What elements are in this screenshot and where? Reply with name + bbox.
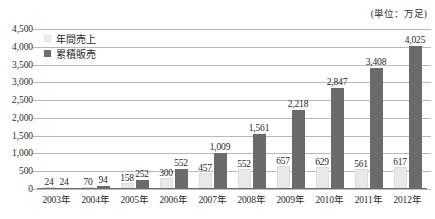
bar-slot: 552 xyxy=(175,29,188,189)
y-tick-mark xyxy=(427,118,431,119)
bar-value-label: 2,218 xyxy=(288,99,308,109)
bar-value-label: 70 xyxy=(83,177,92,187)
y-axis-tick-label: 2,500 xyxy=(12,95,33,105)
bar: 2,218 xyxy=(292,110,305,189)
bar-group: 4571,009 xyxy=(193,29,232,189)
bar-slot: 3,408 xyxy=(370,29,383,189)
bar-group: 6572,218 xyxy=(271,29,310,189)
chart-legend: 年間売上累積販売 xyxy=(44,31,96,61)
bar-value-label: 629 xyxy=(315,157,329,167)
bar-value-label: 24 xyxy=(59,177,68,187)
bar: 2,847 xyxy=(331,88,344,189)
y-axis-tick-label: 2,000 xyxy=(12,113,33,123)
x-axis-tick-label: 2009年 xyxy=(271,192,310,206)
legend-item: 年間売上 xyxy=(44,31,96,46)
x-axis-line xyxy=(37,188,427,189)
legend-swatch-icon xyxy=(44,50,51,57)
sales-bar-chart: (単位：万足) 242470941582523005524571,0095521… xyxy=(0,0,435,219)
x-axis-tick-label: 2008年 xyxy=(232,192,271,206)
y-axis-tick-label: 3,500 xyxy=(12,60,33,70)
bar-group: 158252 xyxy=(115,29,154,189)
y-tick-mark xyxy=(427,29,431,30)
unit-note: (単位：万足) xyxy=(371,6,427,20)
legend-label: 年間売上 xyxy=(56,31,96,46)
gridline xyxy=(37,189,427,190)
bar: 561 xyxy=(355,169,368,189)
bar: 657 xyxy=(277,166,290,189)
bar-value-label: 94 xyxy=(98,175,107,185)
y-tick-mark xyxy=(427,82,431,83)
bar-slot: 300 xyxy=(160,29,173,189)
y-tick-mark xyxy=(427,47,431,48)
x-axis-tick-label: 2011年 xyxy=(349,192,388,206)
y-tick-mark xyxy=(427,189,431,190)
bar: 552 xyxy=(238,169,251,189)
bar-slot: 629 xyxy=(316,29,329,189)
bar: 3,408 xyxy=(370,68,383,189)
y-tick-mark xyxy=(427,100,431,101)
bar-group: 6292,847 xyxy=(310,29,349,189)
bar: 1,561 xyxy=(253,134,266,190)
bar: 457 xyxy=(199,173,212,189)
x-axis-labels: 2003年2004年2005年2006年2007年2008年2009年2010年… xyxy=(37,192,427,206)
bar-slot: 94 xyxy=(97,29,110,189)
x-axis-tick-label: 2006年 xyxy=(154,192,193,206)
bar-slot: 552 xyxy=(238,29,251,189)
bar-slot: 4,025 xyxy=(409,29,422,189)
bar-group: 5521,561 xyxy=(232,29,271,189)
y-tick-mark xyxy=(33,189,37,190)
bar-value-label: 552 xyxy=(174,158,188,168)
y-tick-mark xyxy=(427,171,431,172)
y-axis-tick-label: 1,000 xyxy=(12,148,33,158)
y-axis-tick-label: 500 xyxy=(19,166,33,176)
bar: 629 xyxy=(316,167,329,189)
y-tick-mark xyxy=(427,65,431,66)
bar-value-label: 158 xyxy=(120,173,134,183)
bar-value-label: 457 xyxy=(198,163,212,173)
bar-slot: 1,561 xyxy=(253,29,266,189)
y-axis-tick-label: 1,500 xyxy=(12,131,33,141)
legend-swatch-icon xyxy=(44,35,51,42)
bar-group: 300552 xyxy=(154,29,193,189)
x-axis-tick-label: 2003年 xyxy=(37,192,76,206)
bar-slot: 2,847 xyxy=(331,29,344,189)
x-axis-tick-label: 2004年 xyxy=(76,192,115,206)
bar-value-label: 2,847 xyxy=(327,77,347,87)
bar: 552 xyxy=(175,169,188,189)
y-axis-tick-label: 4,500 xyxy=(12,24,33,34)
y-axis-tick-label: 4,000 xyxy=(12,42,33,52)
bar-value-label: 561 xyxy=(354,159,368,169)
bar-slot: 617 xyxy=(394,29,407,189)
legend-item: 累積販売 xyxy=(44,46,96,61)
bar-value-label: 657 xyxy=(276,156,290,166)
x-axis-tick-label: 2005年 xyxy=(115,192,154,206)
bar-value-label: 1,009 xyxy=(210,142,230,152)
y-tick-mark xyxy=(427,136,431,137)
bar-slot: 1,009 xyxy=(214,29,227,189)
y-tick-mark xyxy=(427,153,431,154)
bar-group: 5613,408 xyxy=(349,29,388,189)
bar-group: 6174,025 xyxy=(388,29,427,189)
x-axis-tick-label: 2010年 xyxy=(310,192,349,206)
bar: 4,025 xyxy=(409,46,422,189)
bar-slot: 2,218 xyxy=(292,29,305,189)
bar-value-label: 300 xyxy=(159,168,173,178)
bar-value-label: 4,025 xyxy=(405,35,425,45)
x-axis-tick-label: 2007年 xyxy=(193,192,232,206)
bar-value-label: 552 xyxy=(237,159,251,169)
x-axis-tick-label: 2012年 xyxy=(388,192,427,206)
bar-slot: 252 xyxy=(136,29,149,189)
bar-slot: 158 xyxy=(121,29,134,189)
bar-slot: 561 xyxy=(355,29,368,189)
y-axis-tick-label: 0 xyxy=(28,184,33,194)
bar-value-label: 617 xyxy=(393,157,407,167)
bar-value-label: 3,408 xyxy=(366,57,386,67)
bar-value-label: 252 xyxy=(135,169,149,179)
bar: 1,009 xyxy=(214,153,227,189)
y-axis-tick-label: 3,000 xyxy=(12,77,33,87)
bar-slot: 457 xyxy=(199,29,212,189)
legend-label: 累積販売 xyxy=(56,46,96,61)
bar-value-label: 1,561 xyxy=(249,123,269,133)
bar-value-label: 24 xyxy=(44,177,53,187)
bar: 617 xyxy=(394,167,407,189)
